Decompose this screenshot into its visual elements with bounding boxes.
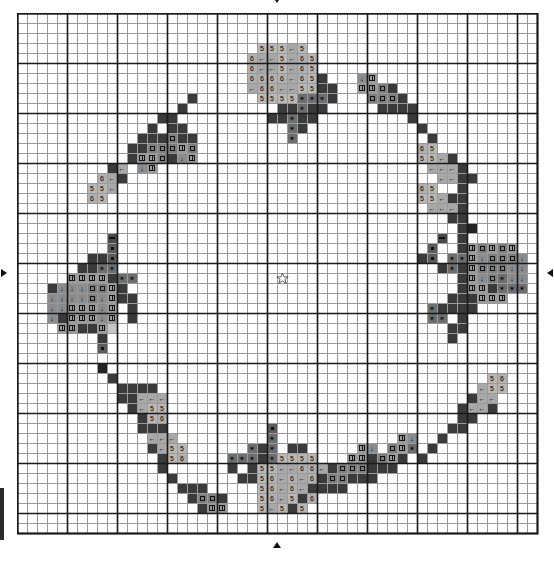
- center-star-icon: [276, 272, 289, 285]
- pattern-chart[interactable]: 555←56←←5←656←←5←656666←65←66←←555555✶✶✶…: [17, 13, 537, 533]
- cross-stitch-chart-page: 555←56←←5←656←←5←656666←65←66←←555555✶✶✶…: [0, 0, 554, 571]
- page-edge-mark: [0, 488, 4, 540]
- marker-layer: [17, 13, 537, 533]
- left-center-arrow-icon: [1, 269, 7, 277]
- top-center-arrow-icon: [273, 0, 281, 3]
- bottom-center-arrow-icon: [273, 542, 281, 548]
- right-center-arrow-icon: [547, 269, 553, 277]
